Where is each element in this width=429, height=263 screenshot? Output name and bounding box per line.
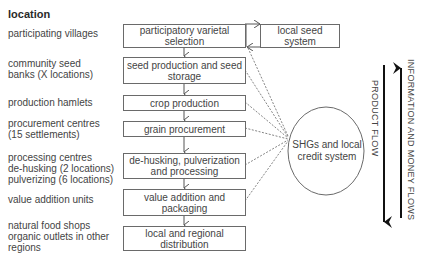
hub-label: SHGs and local credit system bbox=[288, 139, 366, 163]
step-box-value-addition: value addition and packaging bbox=[123, 189, 246, 216]
step-box-seed-production: seed production and seed storage bbox=[123, 57, 246, 84]
information-flow-label: INFORMATION AND MONEY FLOWS bbox=[406, 59, 416, 220]
step-box-grain-procurement: grain procurement bbox=[123, 121, 246, 137]
location-label: value addition units bbox=[8, 194, 94, 205]
step-box-processing: de-husking, pulverization and processing bbox=[123, 153, 246, 179]
step-box-varietal-selection: participatory varietal selection bbox=[123, 24, 246, 48]
step-box-crop-production: crop production bbox=[123, 95, 246, 111]
location-label: procurement centres (15 settlements) bbox=[8, 118, 100, 140]
location-label: natural food shops organic outlets in ot… bbox=[8, 220, 109, 253]
location-label: community seed banks (X locations) bbox=[8, 58, 93, 80]
product-flow-label: PRODUCT FLOW bbox=[370, 80, 380, 156]
local-seed-system-box: local seed system bbox=[260, 24, 340, 48]
location-label: participating villages bbox=[8, 28, 98, 39]
location-label: processing centres de-husking (2 locatio… bbox=[8, 152, 114, 185]
seed-exchange-arrows bbox=[245, 24, 260, 47]
location-heading: location bbox=[8, 8, 50, 20]
hub-links bbox=[245, 48, 288, 201]
step-box-distribution: local and regional distribution bbox=[123, 226, 246, 251]
location-label: production hamlets bbox=[8, 97, 93, 108]
